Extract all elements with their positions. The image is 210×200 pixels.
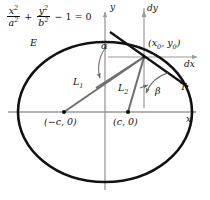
tangent-point-dot xyxy=(142,55,145,58)
dx-axis-label: dx xyxy=(184,60,195,69)
ellipse-name-label: E xyxy=(30,38,37,48)
ellipse-figure-svg xyxy=(0,0,210,200)
x-axis-label: x xyxy=(186,115,191,124)
tangent-line-label: T xyxy=(180,82,186,92)
ellipse-equation: x2 a2 + y2 b2 − 1 = 0 xyxy=(6,6,92,27)
angle-beta-label: β xyxy=(155,86,161,96)
equation-fraction-y: y2 b2 xyxy=(37,6,50,27)
equation-fraction-x: x2 a2 xyxy=(7,6,20,27)
focus-left-label: (−c, 0) xyxy=(44,117,77,127)
diagram-canvas: x2 a2 + y2 b2 − 1 = 0 E y x dy dx (x0, y… xyxy=(0,0,210,200)
equation-tail: − 1 = 0 xyxy=(54,12,92,22)
focus-left-dot xyxy=(62,110,66,114)
equation-b-denominator: b2 xyxy=(37,17,50,27)
focus-right-label: (c, 0) xyxy=(113,117,138,127)
dy-axis-label: dy xyxy=(147,4,158,13)
focus-right-dot xyxy=(126,110,130,114)
equation-plus-operator: + xyxy=(24,12,33,22)
y-axis-label: y xyxy=(110,3,115,12)
tangent-point-label: (x0, y0) xyxy=(148,38,180,48)
focal-radius-1-label: L1 xyxy=(73,77,83,87)
dy-axis-arrowhead xyxy=(142,11,147,18)
equation-a-denominator: a2 xyxy=(7,17,20,27)
focal-radius-2-label: L2 xyxy=(118,83,128,93)
angle-alpha-label: α xyxy=(101,41,107,51)
